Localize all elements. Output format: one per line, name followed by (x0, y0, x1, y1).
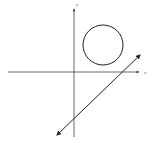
coordinate-diagram: x y (0, 0, 152, 143)
y-axis-label: y (75, 2, 79, 7)
x-axis-label: x (143, 70, 147, 75)
line-with-arrows (57, 55, 140, 135)
circle (83, 25, 123, 65)
